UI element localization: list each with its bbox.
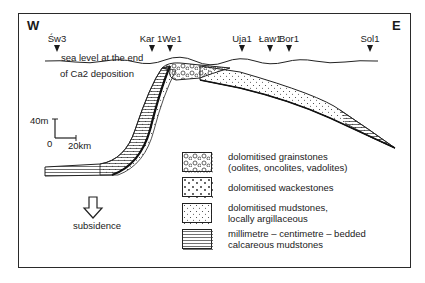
legend-swatch-wackestone — [182, 177, 212, 197]
legend-label: dolomitised mudstones,locally argillaceo… — [228, 203, 328, 224]
legend-label: millimetre – centimetre – beddedcalcareo… — [228, 229, 366, 250]
legend-label: dolomitised wackestones — [228, 183, 334, 194]
legend-label: dolomitised grainstones(oolites, oncolit… — [228, 152, 347, 173]
subsidence-label: subsidence — [73, 221, 121, 231]
legend-swatch-calcareous — [182, 229, 212, 249]
legend-swatch-mudstone — [182, 203, 212, 223]
legend-swatch-grainstone — [182, 152, 212, 172]
